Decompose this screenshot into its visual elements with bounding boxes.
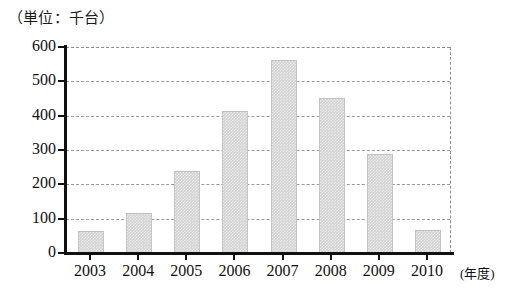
x-axis-line [64, 252, 454, 255]
x-axis-tick [282, 254, 284, 260]
y-axis-line [64, 45, 67, 255]
y-axis-tick [58, 46, 64, 48]
y-axis-tick [58, 183, 64, 185]
y-axis-tick-label: 100 [0, 210, 56, 226]
bar [367, 154, 393, 253]
x-axis-tick [137, 254, 139, 260]
y-axis-tick [58, 80, 64, 82]
bar [174, 171, 200, 253]
x-axis-tick [89, 254, 91, 260]
bar [415, 230, 441, 253]
x-axis-tick [233, 254, 235, 260]
y-axis-tick-label: 500 [0, 72, 56, 88]
y-axis-tick-label: 200 [0, 175, 56, 191]
gridline [66, 116, 450, 117]
gridline [66, 81, 450, 82]
y-axis-tick [58, 252, 64, 254]
x-axis-tick [426, 254, 428, 260]
x-axis-tick-label: 2010 [399, 262, 455, 280]
bar-chart: （単位：千台） 0100200300400500600 (年度) 2003200… [0, 0, 518, 295]
y-axis-tick-label: 400 [0, 107, 56, 123]
y-axis-tick-label: 0 [0, 244, 56, 260]
gridline [66, 47, 450, 48]
y-axis-tick [58, 115, 64, 117]
bar [78, 231, 104, 253]
plot-area [66, 47, 451, 253]
bar [126, 213, 152, 253]
gridline [66, 150, 450, 151]
bar [222, 111, 248, 253]
y-axis-tick-labels: 0100200300400500600 [0, 0, 56, 295]
x-axis-tick [330, 254, 332, 260]
y-axis-tick [58, 149, 64, 151]
x-axis-tick [185, 254, 187, 260]
bar [319, 98, 345, 254]
x-axis-unit-label: (年度) [460, 266, 495, 282]
y-axis-tick [58, 218, 64, 220]
y-axis-tick-label: 600 [0, 38, 56, 54]
x-axis-tick [378, 254, 380, 260]
bar [271, 60, 297, 253]
y-axis-tick-label: 300 [0, 141, 56, 157]
